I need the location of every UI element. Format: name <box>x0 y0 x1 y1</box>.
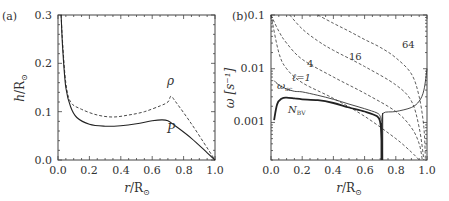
a-xtick-4: 0.8 <box>175 164 193 177</box>
curve-16 <box>290 15 424 160</box>
panel-a-tag: (a) <box>2 10 17 23</box>
figure: (a) 0.0 0.1 0.2 0.3 0.0 0.2 0.4 0.6 0.8 … <box>0 0 449 201</box>
b-ytick-0.001: 0.001 <box>234 115 266 128</box>
panel-b: (b) 0.1 0.01 0.001 0.0 0.2 0.4 0.6 0.8 1… <box>223 9 436 197</box>
label-l64: 64 <box>402 39 415 50</box>
a-xlabel: r/R⊙ <box>124 181 150 197</box>
panel-b-ticks <box>271 15 427 160</box>
label-nbv: NBV <box>287 104 306 116</box>
pressure-scale-height-curve <box>61 15 215 160</box>
a-xtick-0: 0.0 <box>49 164 67 177</box>
panel-b-frame <box>271 15 427 160</box>
a-xtick-1: 0.2 <box>80 164 98 177</box>
b-xtick-2: 0.4 <box>324 164 342 177</box>
curve-64 <box>318 15 426 160</box>
b-xtick-1: 0.2 <box>293 164 311 177</box>
panel-b-tag: (b) <box>232 10 248 23</box>
a-xtick-2: 0.4 <box>112 164 130 177</box>
a-ytick-3: 0.3 <box>35 9 53 22</box>
label-omega-ac: ωac <box>277 80 293 92</box>
p-label: P <box>166 122 176 136</box>
b-ylabel: ω [s⁻¹] <box>223 68 237 109</box>
rho-label: ρ <box>166 74 174 88</box>
b-xlabel: r/R⊙ <box>336 181 362 197</box>
a-ylabel: h/R⊙ <box>13 74 29 102</box>
curve--1 <box>271 15 419 160</box>
b-xtick-4: 0.8 <box>387 164 405 177</box>
a-ytick-2: 0.2 <box>35 57 53 70</box>
b-ytick-0.1: 0.1 <box>248 9 266 22</box>
panel-a: (a) 0.0 0.1 0.2 0.3 0.0 0.2 0.4 0.6 0.8 … <box>2 9 224 197</box>
label-l16: 16 <box>349 51 362 62</box>
a-xtick-3: 0.6 <box>143 164 161 177</box>
label-l4: 4 <box>307 58 313 69</box>
b-xtick-0: 0.0 <box>262 164 280 177</box>
panel-b-curves <box>271 15 427 160</box>
label-l1: ℓ=1 <box>292 72 311 83</box>
b-ytick-0.01: 0.01 <box>241 62 266 75</box>
a-ytick-1: 0.1 <box>35 106 53 119</box>
b-xtick-5: 1.0 <box>418 164 436 177</box>
b-xtick-3: 0.6 <box>356 164 374 177</box>
a-xtick-5: 1.0 <box>206 164 224 177</box>
